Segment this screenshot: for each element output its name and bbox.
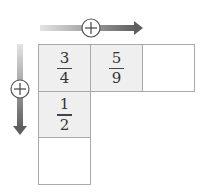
cell-r0-c2-blank[interactable] <box>142 44 195 92</box>
numerator: 3 <box>60 50 70 66</box>
fraction: 3 4 <box>57 50 72 86</box>
fraction: 1 2 <box>57 96 72 132</box>
numerator: 5 <box>112 50 122 66</box>
numerator: 1 <box>60 96 70 112</box>
horizontal-arrow <box>40 19 143 37</box>
fraction: 5 9 <box>109 50 124 86</box>
vertical-arrow <box>11 44 29 135</box>
operation-arrows <box>0 0 206 194</box>
denominator: 2 <box>60 117 70 133</box>
denominator: 9 <box>112 70 122 86</box>
cell-r1-c0: 1 2 <box>38 91 91 138</box>
cell-r0-c0: 3 4 <box>38 44 91 92</box>
cell-r0-c1: 5 9 <box>90 44 143 92</box>
cell-r2-c0-blank[interactable] <box>38 137 91 185</box>
denominator: 4 <box>60 70 70 86</box>
